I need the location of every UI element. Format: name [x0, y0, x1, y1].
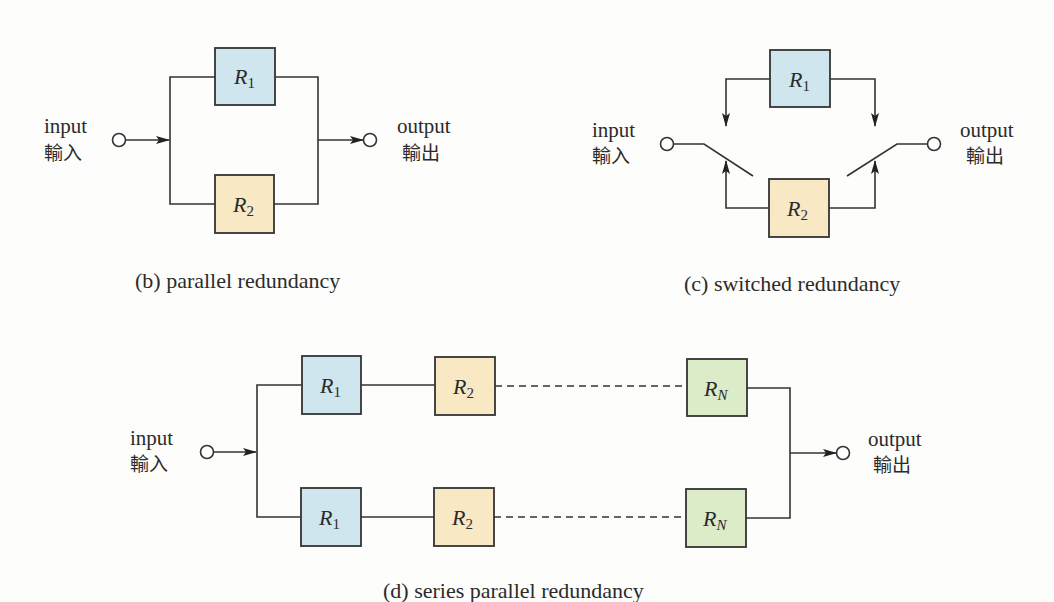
diagram-switched-redundancy: input 輸入 R1 R2 output 輸出 (c) switched re…: [592, 50, 1014, 296]
d-input-label: input: [130, 426, 173, 450]
d-output-label: output: [868, 427, 922, 451]
d-output-terminal: [837, 447, 850, 460]
c-output-switch: [847, 144, 927, 176]
b-output-terminal: [364, 134, 377, 147]
d-input-terminal: [201, 446, 214, 459]
c-r2-to-input-switch-arrow: [726, 161, 769, 208]
d-output-label-cjk: 輸出: [873, 454, 911, 476]
b-output-label: output: [397, 114, 451, 138]
d-input-label-cjk: 輸入: [130, 453, 168, 475]
d-caption: (d) series parallel redundancy: [383, 578, 644, 602]
c-output-terminal: [928, 138, 941, 151]
b-split-wire: [170, 77, 215, 204]
d-merge-wire: [746, 388, 790, 518]
b-input-label: input: [44, 114, 87, 138]
c-input-terminal: [661, 138, 674, 151]
d-split-wire: [257, 385, 302, 517]
c-caption: (c) switched redundancy: [684, 271, 900, 296]
redundancy-diagrams-figure: input 輸入 R1 R2 output 輸出 (b) parallel re…: [0, 0, 1054, 602]
c-r1-to-input-switch-arrow: [726, 79, 770, 126]
b-merge-wire: [274, 77, 318, 204]
b-input-label-cjk: 輸入: [44, 142, 82, 164]
diagram-svg: input 輸入 R1 R2 output 輸出 (b) parallel re…: [0, 0, 1054, 602]
diagram-parallel-redundancy: input 輸入 R1 R2 output 輸出 (b) parallel re…: [44, 48, 451, 293]
b-input-terminal: [113, 134, 126, 147]
c-input-label: input: [592, 118, 635, 142]
c-output-label-cjk: 輸出: [966, 145, 1004, 167]
b-output-label-cjk: 輸出: [402, 142, 440, 164]
c-input-label-cjk: 輸入: [592, 145, 630, 167]
c-output-label: output: [960, 118, 1014, 142]
c-r1-to-output-switch-arrow: [830, 79, 875, 126]
c-r2-to-output-switch-arrow: [829, 161, 875, 208]
c-input-switch: [674, 144, 753, 176]
b-caption: (b) parallel redundancy: [135, 268, 340, 293]
diagram-series-parallel-redundancy: input 輸入 R1 R2 RN R1 R2 RN output 輸出 (d)…: [130, 356, 922, 602]
